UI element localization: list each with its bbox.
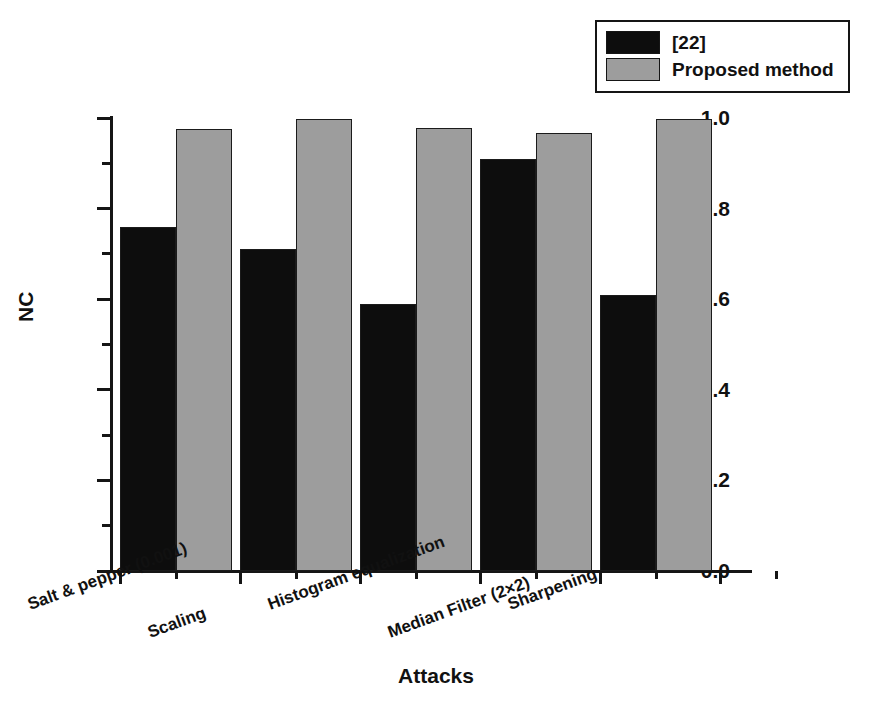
y-tick-major — [97, 388, 110, 391]
bar-chart-figure: [22] Proposed method 0.00.20.40.60.81.0 … — [0, 0, 872, 712]
bar-1-1 — [296, 119, 352, 571]
x-axis-title: Attacks — [0, 664, 872, 688]
y-tick-minor — [102, 252, 110, 255]
y-tick-minor — [102, 162, 110, 165]
bar-0-4 — [600, 295, 656, 571]
legend-item-1: Proposed method — [606, 56, 839, 83]
x-tick-minor — [415, 571, 418, 579]
x-category-label: Salt & pepper (0.001) — [25, 538, 190, 614]
y-tick-minor — [102, 434, 110, 437]
bar-1-4 — [656, 119, 712, 571]
y-tick-minor — [102, 524, 110, 527]
x-tick-minor — [775, 571, 778, 579]
x-tick-minor — [175, 571, 178, 579]
bar-1-2 — [416, 128, 472, 571]
y-tick-minor — [102, 343, 110, 346]
bar-0-2 — [360, 304, 416, 571]
x-tick-major — [479, 571, 482, 584]
legend-label-series-0: [22] — [672, 32, 706, 54]
bar-1-0 — [176, 129, 232, 571]
x-tick-minor — [535, 571, 538, 579]
bar-0-0 — [120, 227, 176, 571]
chart-legend: [22] Proposed method — [595, 20, 850, 93]
bar-0-3 — [480, 159, 536, 571]
y-tick-major — [97, 298, 110, 301]
y-axis-title: NC — [14, 292, 38, 322]
bar-1-3 — [536, 133, 592, 571]
legend-label-series-1: Proposed method — [672, 59, 834, 81]
x-tick-major — [719, 571, 722, 584]
x-category-label: Scaling — [145, 603, 209, 642]
legend-item-0: [22] — [606, 29, 839, 56]
legend-swatch-series-1 — [606, 58, 660, 81]
legend-swatch-series-0 — [606, 31, 660, 54]
x-tick-minor — [655, 571, 658, 579]
bar-0-1 — [240, 249, 296, 571]
x-tick-major — [239, 571, 242, 584]
y-tick-major — [97, 479, 110, 482]
plot-area: 0.00.20.40.60.81.0 — [110, 118, 750, 571]
y-tick-major — [97, 207, 110, 210]
x-tick-minor — [295, 571, 298, 579]
y-tick-major — [97, 117, 110, 120]
